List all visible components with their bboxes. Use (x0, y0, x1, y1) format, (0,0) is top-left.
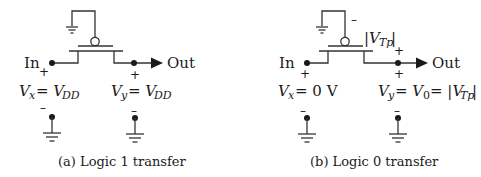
vtp-label: |V Tp | (364, 29, 396, 49)
caption-a: (a) Logic 1 transfer (58, 154, 187, 169)
vtp-minus-sign: – (351, 13, 357, 27)
vx-minus-sign: – (40, 101, 46, 115)
source-lead (52, 51, 78, 63)
pmos-transistor-a (52, 11, 152, 63)
ground-icon (66, 27, 78, 33)
svg-text:DD: DD (153, 89, 172, 102)
input-label: In (24, 54, 40, 72)
panel-b-logic-0-transfer: In Out – |V Tp | + + + V x = 0 V V y = V… (278, 11, 477, 169)
logic-transfer-diagram: In Out + + V x = V DD V y = V DD – – (0, 0, 481, 177)
gate-wire (72, 11, 95, 37)
caption-b: (b) Logic 0 transfer (310, 154, 439, 169)
output-label: Out (167, 54, 195, 72)
svg-text:= V: = V (395, 82, 425, 100)
drain-lead (364, 51, 416, 63)
output-terminal-dot (131, 60, 137, 66)
vy-plus-sign: + (130, 68, 140, 82)
svg-text:|: | (472, 82, 477, 100)
output-arrow-icon (151, 58, 163, 69)
svg-text:DD: DD (61, 89, 80, 102)
output-terminal-dot (395, 60, 401, 66)
svg-text:y: y (120, 89, 128, 102)
vx-expression: V x = V DD (19, 82, 80, 102)
input-terminal-dot (49, 60, 55, 66)
ground-icon (389, 115, 407, 142)
vx-plus-sign: + (39, 65, 49, 79)
svg-text:y: y (387, 89, 395, 102)
vx-expression: V x = 0 V (278, 82, 339, 102)
gate-bubble-icon (341, 37, 349, 45)
vy-expression: V y = V 0 = |V Tp | (378, 82, 477, 102)
output-label: Out (432, 54, 460, 72)
input-terminal-dot (304, 60, 310, 66)
svg-text:x: x (29, 89, 36, 102)
ground-icon (316, 27, 328, 33)
ground-icon (298, 115, 316, 142)
svg-text:0: 0 (423, 89, 430, 102)
ground-icon (43, 114, 61, 141)
vy-expression: V y = V DD (111, 82, 172, 102)
source-lead (307, 51, 328, 63)
svg-text:x: x (288, 89, 295, 102)
gate-bubble-icon (91, 37, 99, 45)
gate-wire (322, 11, 345, 37)
vy-plus-sign: + (394, 67, 404, 81)
panel-a-logic-1-transfer: In Out + + V x = V DD V y = V DD – – (19, 11, 195, 169)
input-label: In (279, 54, 295, 72)
ground-icon (126, 115, 144, 142)
vx-plus-sign: + (300, 67, 310, 81)
vtp-plus-sign: + (394, 44, 404, 58)
svg-text:= 0 V: = 0 V (295, 82, 339, 100)
output-arrow-icon (416, 58, 428, 69)
